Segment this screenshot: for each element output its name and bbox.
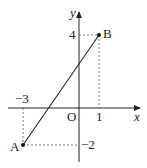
tick-label-x-neg3: −3: [15, 91, 29, 106]
point-b: [97, 33, 101, 37]
tick-label-y-neg2: −2: [81, 137, 95, 152]
point-a-label: A: [10, 139, 20, 154]
y-axis-label: y: [68, 5, 76, 20]
point-a: [21, 143, 25, 147]
origin-label: O: [67, 109, 76, 124]
x-axis-label: x: [133, 109, 140, 124]
point-b-label: B: [103, 26, 112, 41]
tick-label-y-4: 4: [69, 27, 76, 42]
segment-ab: [23, 35, 99, 145]
coordinate-diagram: y x O B A 4 −3 1 −2: [0, 0, 147, 168]
tick-label-x-1: 1: [96, 109, 103, 124]
